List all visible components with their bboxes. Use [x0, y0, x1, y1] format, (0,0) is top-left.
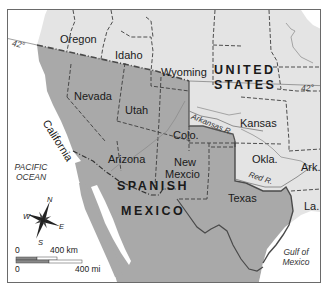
label-new-mexico-1: New — [174, 157, 196, 168]
label-utah: Utah — [125, 105, 148, 116]
scale-mi-zero: 0 — [15, 265, 20, 274]
label-arizona: Arizona — [108, 154, 145, 165]
label-states: STATES — [214, 79, 276, 92]
label-latitude-east: 42° — [301, 84, 314, 93]
compass-e: E — [59, 223, 64, 231]
scale-km-zero: 0 — [15, 246, 20, 255]
label-colorado: Colo. — [173, 130, 199, 141]
label-united: UNITED — [214, 64, 276, 77]
label-texas: Texas — [228, 193, 257, 204]
pacific-line-1: PACIFIC — [15, 162, 48, 172]
pacific-line-2: OCEAN — [16, 172, 46, 182]
label-nevada: Nevada — [74, 91, 112, 102]
compass-w: W — [23, 213, 30, 221]
label-wyoming: Wyoming — [161, 67, 207, 78]
label-oregon: Oregon — [60, 34, 97, 45]
label-arkansas: Ark. — [301, 162, 321, 173]
label-louisiana: La. — [304, 201, 319, 212]
compass-s: S — [38, 239, 43, 247]
gulf-line-1: Gulf of — [283, 247, 308, 257]
label-kansas: Kansas — [240, 118, 277, 129]
label-idaho: Idaho — [115, 50, 143, 61]
scale-km-label: 400 km — [50, 246, 78, 255]
label-latitude-west: 42° — [11, 39, 25, 50]
label-gulf-of-mexico: Gulf of Mexico — [276, 248, 316, 268]
gulf-line-2: Mexico — [283, 257, 310, 267]
scale-mi-label: 400 mi — [75, 265, 101, 274]
map-frame: Oregon Idaho Wyoming UNITED STATES Nevad… — [7, 9, 321, 283]
compass-n: N — [47, 196, 52, 204]
label-spanish: SPANISH — [117, 180, 189, 193]
label-oklahoma: Okla. — [252, 154, 278, 165]
label-mexico: MEXICO — [121, 205, 185, 218]
label-pacific-ocean: PACIFIC OCEAN — [8, 163, 54, 183]
